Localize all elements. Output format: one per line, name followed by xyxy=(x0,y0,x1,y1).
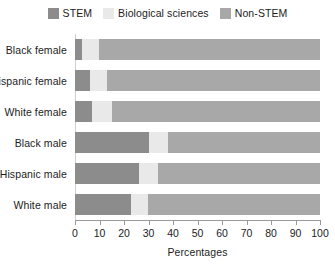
category-axis-labels: Black femaleHispanic femaleWhite femaleB… xyxy=(0,34,71,220)
x-tick-label-10: 10 xyxy=(94,227,106,239)
bar-row xyxy=(75,194,320,215)
category-label-hispanic-female: Hispanic female xyxy=(0,75,67,87)
x-tick-label-100: 100 xyxy=(311,227,329,239)
bar-segment-biological-sciences xyxy=(131,194,148,215)
bar-segment-biological-sciences xyxy=(90,70,107,91)
bar-segment-stem xyxy=(75,101,92,122)
category-label-white-female: White female xyxy=(5,106,67,118)
bar-segment-non-stem xyxy=(112,101,320,122)
bar-row xyxy=(75,132,320,153)
legend-swatch-stem xyxy=(48,8,59,19)
bar-segment-biological-sciences xyxy=(139,163,159,184)
x-tick-80 xyxy=(271,220,272,225)
x-tick-label-60: 60 xyxy=(216,227,228,239)
bar-segment-non-stem xyxy=(148,194,320,215)
legend-item-stem: STEM xyxy=(48,8,93,19)
stacked-bar-chart: STEM Biological sciences Non-STEM Black … xyxy=(0,0,335,280)
bar-segment-stem xyxy=(75,194,131,215)
x-tick-label-20: 20 xyxy=(118,227,130,239)
x-tick-label-90: 90 xyxy=(290,227,302,239)
x-tick-50 xyxy=(198,220,199,225)
x-tick-60 xyxy=(222,220,223,225)
x-tick-70 xyxy=(247,220,248,225)
x-tick-label-50: 50 xyxy=(192,227,204,239)
bar-segment-biological-sciences xyxy=(149,132,169,153)
x-tick-label-40: 40 xyxy=(167,227,179,239)
legend-label-non-stem: Non-STEM xyxy=(235,8,288,19)
x-tick-label-30: 30 xyxy=(143,227,155,239)
bar-segment-biological-sciences xyxy=(92,101,112,122)
legend-item-biological-sciences: Biological sciences xyxy=(103,8,209,19)
category-label-white-male: White male xyxy=(13,199,67,211)
legend-swatch-non-stem xyxy=(220,8,231,19)
x-tick-10 xyxy=(100,220,101,225)
bar-segment-stem xyxy=(75,39,82,60)
legend-item-non-stem: Non-STEM xyxy=(220,8,288,19)
legend-label-stem: STEM xyxy=(63,8,93,19)
bar-segment-stem xyxy=(75,70,90,91)
chart-legend: STEM Biological sciences Non-STEM xyxy=(0,8,335,19)
x-tick-100 xyxy=(320,220,321,225)
category-label-black-female: Black female xyxy=(6,44,67,56)
bar-segment-non-stem xyxy=(168,132,320,153)
plot-area: Black femaleHispanic femaleWhite femaleB… xyxy=(0,34,335,280)
x-axis-title: Percentages xyxy=(75,246,320,258)
x-tick-30 xyxy=(149,220,150,225)
bar-segment-non-stem xyxy=(107,70,320,91)
legend-label-biological-sciences: Biological sciences xyxy=(118,8,209,19)
bar-row xyxy=(75,163,320,184)
x-tick-20 xyxy=(124,220,125,225)
category-label-black-male: Black male xyxy=(15,137,67,149)
bar-segment-non-stem xyxy=(99,39,320,60)
category-label-hispanic-male: Hispanic male xyxy=(0,168,67,180)
x-tick-label-70: 70 xyxy=(241,227,253,239)
x-tick-90 xyxy=(296,220,297,225)
legend-swatch-biological-sciences xyxy=(103,8,114,19)
x-tick-40 xyxy=(173,220,174,225)
bar-segment-stem xyxy=(75,132,149,153)
bar-segment-biological-sciences xyxy=(82,39,99,60)
bar-row xyxy=(75,39,320,60)
bar-segment-stem xyxy=(75,163,139,184)
bar-segment-non-stem xyxy=(158,163,320,184)
bars-region xyxy=(75,34,320,220)
bar-row xyxy=(75,70,320,91)
bar-row xyxy=(75,101,320,122)
x-tick-0 xyxy=(75,220,76,225)
x-tick-label-80: 80 xyxy=(265,227,277,239)
x-tick-label-0: 0 xyxy=(72,227,78,239)
